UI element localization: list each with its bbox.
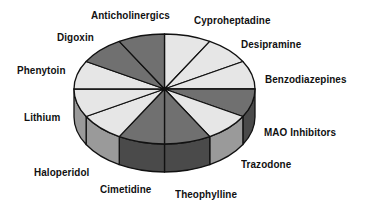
label-phenytoin: Phenytoin: [17, 64, 66, 76]
label-desipramine: Desipramine: [241, 38, 301, 50]
label-benzodiazepines: Benzodiazepines: [265, 73, 347, 85]
label-anticholinergics: Anticholinergics: [91, 9, 170, 21]
label-lithium: Lithium: [24, 111, 60, 123]
label-mao-inhibitors: MAO Inhibitors: [264, 126, 336, 138]
label-theophylline: Theophylline: [175, 188, 237, 200]
pie-center: [162, 87, 166, 91]
label-cyproheptadine: Cyproheptadine: [194, 14, 270, 26]
label-cimetidine: Cimetidine: [100, 183, 151, 195]
label-digoxin: Digoxin: [57, 31, 94, 43]
pie-top: [74, 34, 255, 144]
label-trazodone: Trazodone: [241, 158, 291, 170]
label-haloperidol: Haloperidol: [34, 166, 89, 178]
